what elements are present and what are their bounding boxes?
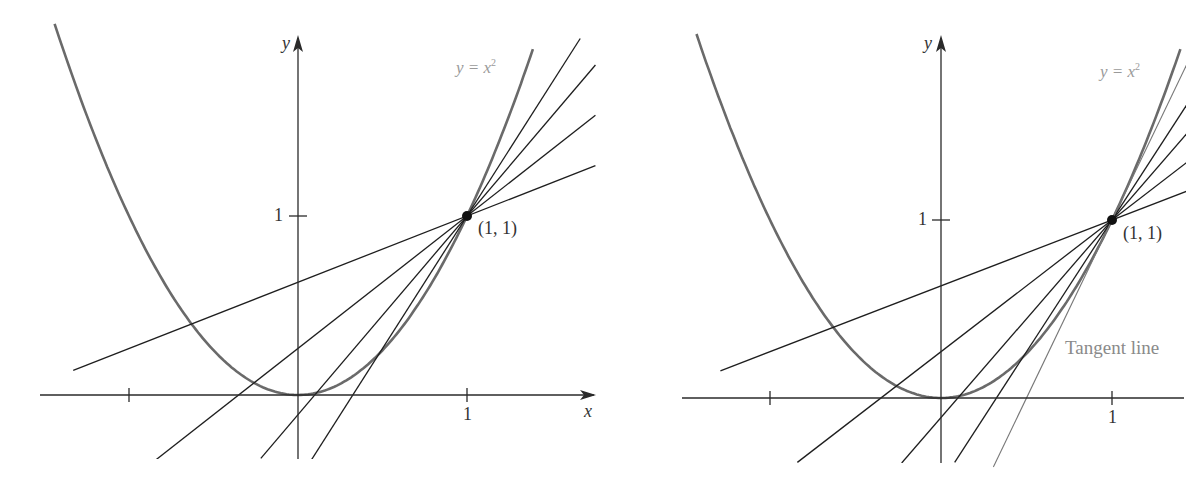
left-x-tick-label-1: 1: [463, 405, 472, 423]
left-secant-line-3: [156, 115, 595, 459]
left-y-axis-label: y: [282, 34, 290, 52]
right-secant-line-1: [955, 104, 1186, 462]
left-curve-label: y = x2: [456, 58, 496, 76]
left-secant-line-1: [312, 39, 581, 460]
plot-canvas: [0, 0, 1186, 483]
left-y-tick-label-1: 1: [274, 206, 283, 224]
curve-equation: y = x: [456, 58, 491, 77]
right-point-label: (1, 1): [1123, 224, 1162, 242]
left-parabola-curve: [55, 24, 533, 395]
right-x-tick-label-1: 1: [1108, 408, 1117, 426]
right-point-marker: [1107, 215, 1117, 225]
right-y-tick-label-1: 1: [918, 210, 927, 228]
figure: y x 1 1 y = x2 (1, 1) y 1 1 y = x2 (1, 1…: [0, 0, 1186, 483]
left-point-label: (1, 1): [478, 219, 517, 237]
right-y-axis-label: y: [924, 34, 932, 52]
right-secant-line-2: [902, 133, 1186, 463]
curve-equation: y = x: [1100, 62, 1135, 81]
tangent-line-label: Tangent line: [1065, 338, 1159, 357]
left-secant-line-2: [261, 65, 596, 458]
right-secant-line-3: [797, 162, 1186, 462]
left-secant-line-4: [73, 166, 595, 371]
right-curve-label: y = x2: [1100, 62, 1140, 80]
curve-exponent: 2: [1135, 61, 1140, 72]
curve-exponent: 2: [491, 57, 496, 68]
left-x-axis-label: x: [584, 402, 592, 420]
left-point-marker: [462, 211, 472, 221]
